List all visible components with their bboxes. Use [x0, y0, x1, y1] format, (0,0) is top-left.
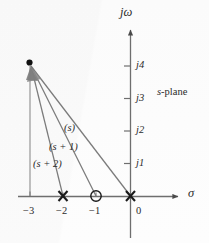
- vector-group: [30, 66, 131, 196]
- sigma-axis-label: σ: [188, 187, 194, 200]
- sigma-axis: [18, 192, 178, 197]
- sigma-tick-label-0: 0: [136, 206, 141, 217]
- jomega-tick-label-j3: j3: [136, 93, 144, 104]
- jomega-tick-label-j4: j4: [136, 60, 144, 71]
- vector-label-s: (s): [64, 123, 75, 134]
- sigma-tick-label--1: −1: [89, 206, 100, 217]
- sigma-tick-label--3: −3: [23, 206, 34, 217]
- jomega-axis: [124, 30, 131, 238]
- vector-label-s-plus-1: (s + 1): [49, 142, 78, 153]
- vector-label-s-plus-2: (s + 2): [33, 159, 62, 170]
- sigma-tick-label--2: −2: [56, 206, 67, 217]
- vector-s-plus-2: [31, 66, 63, 196]
- s-plane-figure: jω σ j4 j3 j2 j1 −3 −2 −1 0 (s) (s + 1) …: [0, 0, 209, 243]
- jomega-tick-label-j2: j2: [136, 125, 144, 136]
- jomega-axis-label: jω: [120, 6, 132, 19]
- vector-s: [31, 66, 131, 196]
- test-point-marker: [26, 59, 32, 65]
- jomega-tick-label-j1: j1: [136, 158, 144, 169]
- s-plane-label: s-plane: [157, 87, 187, 98]
